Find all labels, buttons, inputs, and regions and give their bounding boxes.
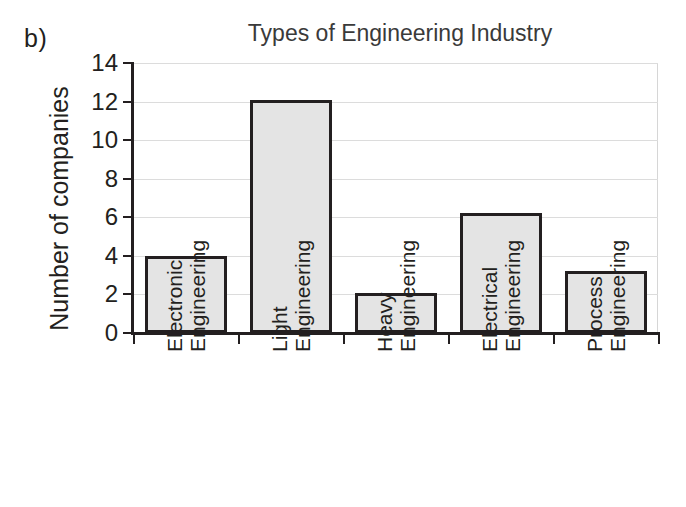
- x-axis-tick: [553, 334, 555, 344]
- x-axis-category-label: ElectronicEngineering: [163, 202, 209, 352]
- y-axis-tick-label: 4: [78, 244, 118, 268]
- category-label-line-2: Engineering: [606, 202, 629, 352]
- category-label-line-2: Engineering: [186, 202, 209, 352]
- x-axis-category-label: ProcessEngineering: [583, 202, 629, 352]
- y-axis-tick-label: 0: [78, 321, 118, 345]
- y-axis-tick-label: 14: [78, 51, 118, 75]
- y-axis-tick: [123, 62, 132, 64]
- category-label-line-1: Process: [583, 202, 606, 352]
- x-axis-tick: [133, 334, 135, 344]
- panel-label: b): [24, 26, 47, 51]
- y-axis-tick-label: 10: [78, 128, 118, 152]
- category-label-line-1: Electronic: [163, 202, 186, 352]
- gridline: [133, 63, 658, 64]
- gridline: [133, 102, 658, 103]
- category-label-line-2: Engineering: [291, 202, 314, 352]
- y-axis-tick: [123, 101, 132, 103]
- y-axis-tick-label: 2: [78, 282, 118, 306]
- x-axis-tick: [343, 334, 345, 344]
- x-axis-category-label: ElectricalEngineering: [478, 202, 524, 352]
- category-label-line-1: Light: [268, 202, 291, 352]
- category-label-line-2: Engineering: [501, 202, 524, 352]
- x-axis-tick: [658, 334, 660, 344]
- category-label-line-1: Electrical: [478, 202, 501, 352]
- y-axis-tick: [123, 216, 132, 218]
- y-axis-tick: [123, 139, 132, 141]
- chart-figure: b) Types of Engineering Industry Number …: [0, 0, 686, 507]
- gridline: [133, 179, 658, 180]
- y-axis-tick-label: 12: [78, 90, 118, 114]
- gridline: [133, 140, 658, 141]
- y-axis-tick: [123, 293, 132, 295]
- y-axis-tick-labels: 02468101214: [72, 0, 118, 507]
- y-axis-tick: [123, 178, 132, 180]
- x-axis-category-label: LightEngineering: [268, 202, 314, 352]
- category-label-line-1: Heavy: [373, 202, 396, 352]
- y-axis-title: Number of companies: [47, 64, 72, 354]
- chart-title: Types of Engineering Industry: [150, 22, 650, 45]
- x-axis-tick: [448, 334, 450, 344]
- category-label-line-2: Engineering: [396, 202, 419, 352]
- y-axis-tick-label: 8: [78, 167, 118, 191]
- y-axis-tick: [123, 255, 132, 257]
- x-axis-category-label: HeavyEngineering: [373, 202, 419, 352]
- y-axis-tick-label: 6: [78, 205, 118, 229]
- x-axis-tick: [238, 334, 240, 344]
